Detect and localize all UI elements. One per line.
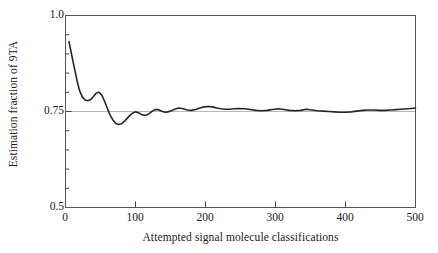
x-tick-label: 100 — [110, 212, 160, 224]
x-tick-label: 500 — [390, 212, 438, 224]
y-tick-label: 1.0 — [30, 9, 64, 21]
data-series-group — [69, 42, 416, 125]
chart-figure: Estimation fraction of 9TA 1.0 0.75 0.5 … — [0, 0, 438, 253]
x-tick-label: 200 — [180, 212, 230, 224]
x-axis-label: Attempted signal molecule classification… — [65, 231, 416, 243]
x-tick-label: 400 — [320, 212, 370, 224]
x-tick-label: 300 — [250, 212, 300, 224]
y-axis-label: Estimation fraction of 9TA — [2, 0, 24, 207]
x-tick-label: 0 — [40, 212, 90, 224]
data-line-0 — [69, 42, 416, 125]
y-tick-label: 0.75 — [30, 105, 64, 117]
